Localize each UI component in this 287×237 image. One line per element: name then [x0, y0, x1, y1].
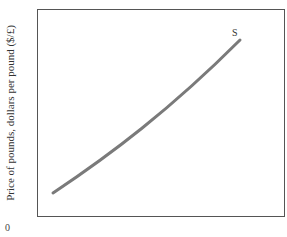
origin-label: 0 [5, 222, 10, 233]
chart-plot [0, 0, 287, 237]
supply-curve [53, 40, 240, 193]
y-axis-label: Price of pounds, dollars per pound ($/£) [4, 25, 16, 201]
supply-curve-label: S [232, 27, 238, 38]
